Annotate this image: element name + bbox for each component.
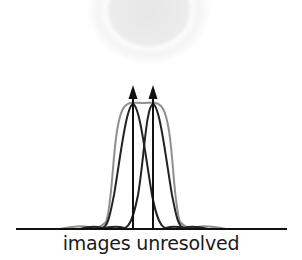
- diagram-caption: images unresolved: [0, 232, 302, 254]
- combined-intensity-curve: [60, 103, 226, 229]
- diagram-canvas: [0, 0, 302, 260]
- airy-disk-pattern: [87, 0, 211, 65]
